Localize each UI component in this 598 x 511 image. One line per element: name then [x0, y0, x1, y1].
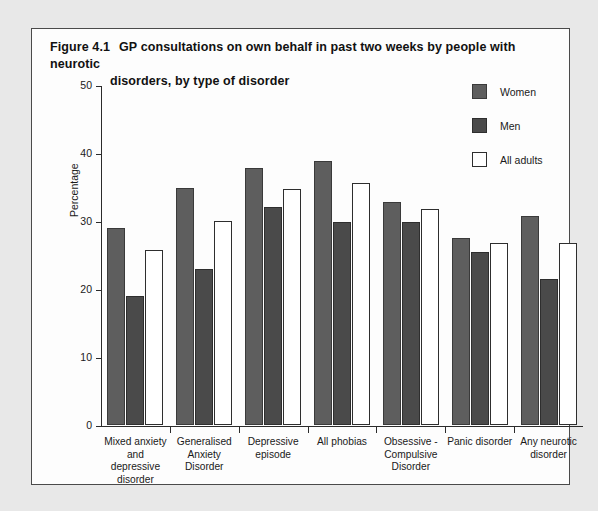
bar-women: [245, 168, 263, 425]
category-label-line: Depressive: [239, 436, 308, 449]
bar-men: [471, 252, 489, 425]
y-tick-label-0: 0: [86, 419, 92, 431]
bar-women: [521, 216, 539, 425]
category-label-line: Any neurotic: [514, 436, 583, 449]
category-label-line: depressive: [101, 461, 170, 474]
bar-all: [421, 209, 439, 425]
category-label: Any neuroticdisorder: [514, 436, 583, 461]
figure-title: Figure 4.1GP consultations on own behalf…: [50, 39, 550, 90]
category-label-line: Generalised: [170, 436, 239, 449]
bar-group: [245, 85, 301, 425]
y-tick-label-40: 40: [80, 147, 92, 159]
bar-men: [264, 207, 282, 425]
bar-all: [352, 183, 370, 425]
bar-all: [145, 250, 163, 425]
figure-panel: Figure 4.1GP consultations on own behalf…: [31, 28, 570, 485]
bar-women: [107, 228, 125, 425]
category-label-line: Compulsive: [376, 449, 445, 462]
bar-all: [490, 243, 508, 425]
bar-men: [126, 296, 144, 425]
bar-men: [333, 222, 351, 425]
bar-group: [314, 85, 370, 425]
figure-title-line-1: GP consultations on own behalf in past t…: [50, 40, 515, 71]
category-label-line: episode: [239, 449, 308, 462]
group-separator-tick: [308, 427, 309, 433]
category-label-line: Mixed anxiety: [101, 436, 170, 449]
group-separator-tick: [376, 427, 377, 433]
y-tick-0: 0: [96, 426, 101, 427]
category-label-line: Panic disorder: [445, 436, 514, 449]
category-label-line: All phobias: [308, 436, 377, 449]
category-label-line: Anxiety: [170, 449, 239, 462]
category-label: All phobias: [308, 436, 377, 449]
group-separator-tick: [514, 427, 515, 433]
bar-all: [283, 189, 301, 425]
bar-all: [214, 221, 232, 425]
x-axis-line: [101, 426, 583, 427]
y-tick-30: 30: [96, 222, 101, 223]
bar-group: [521, 85, 577, 425]
bar-women: [314, 161, 332, 425]
bar-men: [402, 222, 420, 425]
category-label-line: Obsessive -: [376, 436, 445, 449]
bar-group: [452, 85, 508, 425]
group-separator-tick: [170, 427, 171, 433]
bar-men: [195, 269, 213, 425]
y-tick-10: 10: [96, 358, 101, 359]
plot-area: 01020304050 Mixed anxietyanddepressivedi…: [101, 86, 583, 426]
y-axis-line: [101, 86, 102, 427]
y-axis-title: Percentage: [68, 163, 80, 217]
group-separator-tick: [239, 427, 240, 433]
category-label: Obsessive -CompulsiveDisorder: [376, 436, 445, 474]
category-label: Depressiveepisode: [239, 436, 308, 461]
bar-group: [383, 85, 439, 425]
y-tick-label-50: 50: [80, 79, 92, 91]
category-label-line: Disorder: [170, 461, 239, 474]
bar-group: [107, 85, 163, 425]
figure-number: Figure 4.1: [50, 39, 110, 56]
category-label-line: disorder: [101, 474, 170, 487]
category-label-line: disorder: [514, 449, 583, 462]
y-tick-label-20: 20: [80, 283, 92, 295]
y-tick-label-30: 30: [80, 215, 92, 227]
y-tick-50: 50: [96, 86, 101, 87]
category-label-line: Disorder: [376, 461, 445, 474]
category-label: Mixed anxietyanddepressivedisorder: [101, 436, 170, 486]
bar-women: [452, 238, 470, 425]
category-label: GeneralisedAnxietyDisorder: [170, 436, 239, 474]
bar-men: [540, 279, 558, 425]
y-tick-20: 20: [96, 290, 101, 291]
category-label-line: and: [101, 449, 170, 462]
y-tick-label-10: 10: [80, 351, 92, 363]
group-separator-tick: [445, 427, 446, 433]
bar-women: [176, 188, 194, 425]
category-label: Panic disorder: [445, 436, 514, 449]
bar-all: [559, 243, 577, 425]
bar-group: [176, 85, 232, 425]
y-tick-40: 40: [96, 154, 101, 155]
bar-women: [383, 202, 401, 425]
